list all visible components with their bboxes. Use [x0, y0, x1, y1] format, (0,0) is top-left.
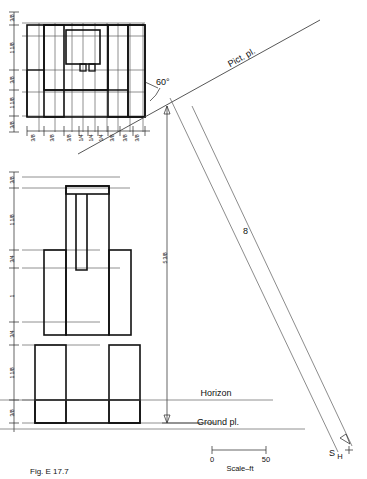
scale-start-label: 0	[210, 455, 214, 464]
elev-vdim-2: 3/4	[9, 255, 15, 262]
plan-horizontal-dimensions: 3/8 3/8 3/8 1/4 1/4 1/4 3/8 3/8 3/8	[27, 126, 150, 141]
elev-vdim-5: 1 1/8	[9, 367, 15, 378]
horizon-label: Horizon	[200, 388, 231, 398]
plan-hdim-7: 3/8	[122, 134, 128, 141]
visual-rays: 8	[170, 98, 352, 452]
plan-projection-lines	[22, 23, 145, 132]
scale-caption: Scale–ft	[226, 464, 254, 473]
plan-hdim-2: 3/8	[66, 134, 72, 141]
technical-drawing-figure: 3/8 1 1/8 3/8 1 1/8 3/8 3/8 3/8 3/8 1/4 …	[0, 0, 367, 479]
plan-vdim-2: 3/8	[9, 76, 15, 83]
elevation-outlines	[35, 186, 140, 423]
angle-arc	[150, 88, 160, 101]
plan-hdim-1: 3/8	[49, 134, 55, 141]
elev-vdim-0: 3/8	[9, 176, 15, 183]
ray-label: 8	[243, 226, 248, 236]
plan-vdim-3: 1 1/8	[9, 97, 15, 108]
elev-vdim-6: 3/8	[9, 409, 15, 416]
station-point-label: S	[329, 448, 335, 458]
elevation-vertical-dimensions: 3/8 1 1/8 3/4 1 3/4 1 1/8 3/8	[9, 172, 19, 432]
plan-hdim-4: 1/4	[88, 134, 94, 141]
plan-vdim-1: 1 1/8	[9, 42, 15, 53]
height-dimension: 5 3/8	[162, 106, 200, 423]
drawing-canvas: 3/8 1 1/8 3/8 1 1/8 3/8 3/8 3/8 3/8 1/4 …	[0, 0, 367, 479]
picture-plane-line	[78, 20, 320, 154]
ray-left	[170, 98, 338, 452]
scale-end-label: 50	[262, 455, 270, 464]
elev-vdim-1: 1 1/8	[9, 214, 15, 225]
plan-hdim-3: 1/4	[78, 134, 84, 141]
plan-vertical-dimensions: 3/8 1 1/8 3/8 1 1/8 3/8	[9, 12, 19, 132]
plan-hdim-0: 3/8	[30, 134, 36, 141]
plan-hdim-8: 3/8	[134, 134, 140, 141]
front-elevation: 3/8 1 1/8 3/4 1 3/4 1 1/8 3/8	[9, 172, 215, 432]
ground-plane-label: Ground pl.	[197, 417, 239, 427]
elev-vdim-3: 1	[9, 294, 15, 297]
station-point-group: S H	[329, 446, 353, 461]
elev-vdim-4: 3/4	[9, 330, 15, 337]
station-point-subscript: H	[337, 452, 342, 461]
plan-outlines	[27, 25, 145, 117]
angle-label: 60°	[156, 77, 170, 87]
plan-vdim-0: 3/8	[9, 14, 15, 21]
height-dim-label: 5 3/8	[162, 252, 168, 263]
scale-bar: 0 50 Scale–ft	[210, 446, 270, 473]
elevation-projection-lines	[22, 177, 215, 423]
top-view-plan: 3/8 1 1/8 3/8 1 1/8 3/8 3/8 3/8 3/8 1/4 …	[9, 12, 150, 141]
plan-vdim-5: 3/8	[9, 121, 15, 128]
figure-caption: Fig. E 17.7	[30, 467, 69, 476]
picture-plane-group: 60° Pict. pl.	[78, 20, 320, 154]
